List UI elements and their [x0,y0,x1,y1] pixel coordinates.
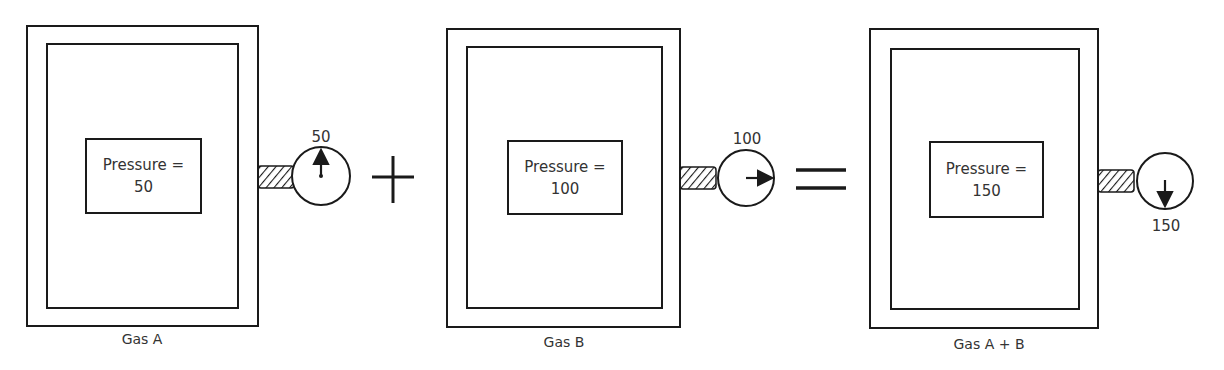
pressure-gauge-gas-a [258,147,350,205]
threaded-connector-icon [680,167,716,189]
threaded-connector-icon [1098,170,1134,192]
plus-operator-icon [372,156,414,203]
diagram-graphics [0,0,1224,370]
equals-operator-icon [796,170,846,188]
threaded-connector-icon [258,166,294,188]
pressure-gauge-gas-b [680,150,774,206]
pressure-gauge-gas-ab [1098,153,1193,209]
